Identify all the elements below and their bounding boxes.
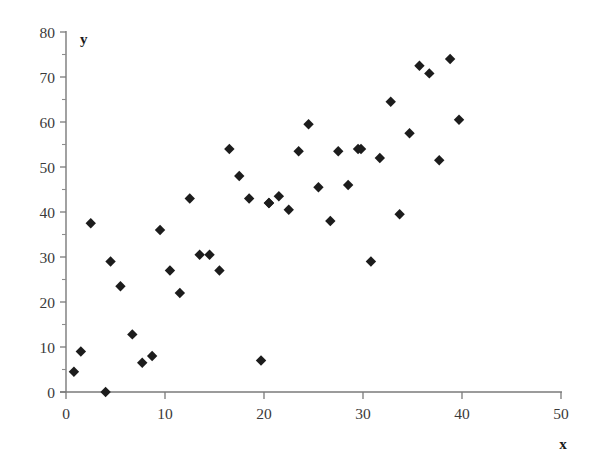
scatter-plot-figure: 0102030405060708001020304050 yx <box>0 0 599 466</box>
data-point-marker <box>303 119 313 129</box>
data-points-group <box>69 54 465 397</box>
x-axis-tick-label: 50 <box>553 405 569 422</box>
ticks-group <box>60 32 561 399</box>
y-axis-tick-label: 50 <box>40 159 56 176</box>
data-point-marker <box>325 216 335 226</box>
data-point-marker <box>86 218 96 228</box>
data-point-marker <box>155 225 165 235</box>
data-point-marker <box>293 146 303 156</box>
x-axis-tick-label: 30 <box>355 405 371 422</box>
axes-group <box>60 31 562 392</box>
tick-labels-group: 0102030405060708001020304050 <box>40 24 570 423</box>
data-point-marker <box>234 171 244 181</box>
data-point-marker <box>284 205 294 215</box>
data-point-marker <box>185 193 195 203</box>
x-axis-tick-label: 20 <box>256 405 272 422</box>
data-point-marker <box>224 144 234 154</box>
data-point-marker <box>175 288 185 298</box>
data-point-marker <box>404 128 414 138</box>
data-point-marker <box>424 68 434 78</box>
x-axis-tick-label: 40 <box>454 405 470 422</box>
data-point-marker <box>386 97 396 107</box>
y-axis-tick-label: 70 <box>40 69 56 86</box>
data-point-marker <box>414 61 424 71</box>
data-point-marker <box>76 346 86 356</box>
data-point-marker <box>264 198 274 208</box>
x-axis-tick-label: 10 <box>157 405 173 422</box>
data-point-marker <box>214 265 224 275</box>
y-axis-tick-label: 10 <box>40 339 56 356</box>
data-point-marker <box>100 387 110 397</box>
y-axis-tick-label: 40 <box>40 204 56 221</box>
y-axis-tick-label: 0 <box>47 384 55 401</box>
data-point-marker <box>127 329 137 339</box>
data-point-marker <box>434 155 444 165</box>
y-axis-tick-label: 30 <box>40 249 56 266</box>
data-point-marker <box>274 191 284 201</box>
data-point-marker <box>454 115 464 125</box>
data-point-marker <box>343 180 353 190</box>
x-axis-tick-label: 0 <box>62 405 70 422</box>
data-point-marker <box>137 358 147 368</box>
data-point-marker <box>313 182 323 192</box>
data-point-marker <box>105 256 115 266</box>
data-point-marker <box>204 250 214 260</box>
axis-titles-group: yx <box>80 31 567 452</box>
data-point-marker <box>333 146 343 156</box>
data-point-marker <box>375 153 385 163</box>
y-axis-tick-label: 20 <box>40 294 56 311</box>
y-axis-tick-label: 60 <box>40 114 56 131</box>
y-axis-tick-label: 80 <box>40 24 56 41</box>
data-point-marker <box>194 250 204 260</box>
data-point-marker <box>69 367 79 377</box>
data-point-marker <box>165 265 175 275</box>
x-axis-title: x <box>559 436 567 452</box>
y-axis-title: y <box>80 31 88 47</box>
plot-canvas: 0102030405060708001020304050 yx <box>0 0 599 466</box>
data-point-marker <box>147 351 157 361</box>
data-point-marker <box>256 355 266 365</box>
data-point-marker <box>115 281 125 291</box>
data-point-marker <box>244 193 254 203</box>
data-point-marker <box>366 256 376 266</box>
data-point-marker <box>445 54 455 64</box>
data-point-marker <box>394 209 404 219</box>
